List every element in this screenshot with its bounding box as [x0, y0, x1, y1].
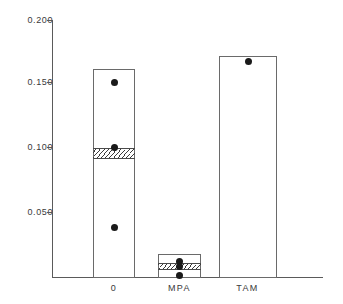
data-point-marker	[111, 144, 118, 151]
y-axis-tick-mark	[47, 82, 53, 83]
y-axis-tick-mark	[47, 20, 53, 21]
y-axis-tick: 0.200	[0, 16, 53, 25]
x-axis-label-tam: TAM	[225, 283, 270, 294]
bar-chart-figure: 0.2000.1500.1000.050 0MPATAM	[0, 0, 343, 304]
y-axis-tick: 0.100	[0, 143, 53, 152]
data-point-marker	[111, 224, 118, 231]
x-axis-label-0: 0	[93, 283, 135, 294]
bar-tam	[219, 56, 277, 278]
data-point-marker	[245, 58, 252, 65]
x-axis-label-mpa: MPA	[157, 283, 202, 294]
data-point-marker	[176, 263, 183, 270]
y-axis-tick: 0.050	[0, 208, 53, 217]
y-axis-tick: 0.150	[0, 78, 53, 87]
bar-0	[93, 69, 135, 278]
y-axis-tick-mark	[47, 147, 53, 148]
data-point-marker	[111, 79, 118, 86]
y-axis-tick-mark	[47, 212, 53, 213]
data-point-marker	[176, 272, 183, 279]
